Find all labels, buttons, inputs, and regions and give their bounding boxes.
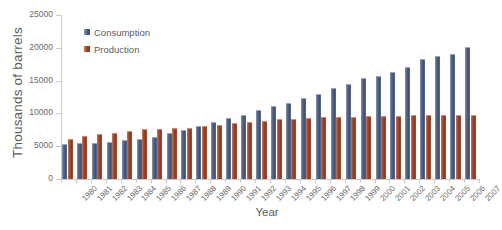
bar-consumption [450,54,455,179]
x-axis-tick [61,179,62,183]
bar-group [61,15,76,179]
x-axis-tick [121,179,122,183]
bar-production [321,117,326,179]
x-axis-tick [330,179,331,183]
bar-consumption [107,142,112,179]
bar-consumption [405,67,410,179]
bar-consumption [331,88,336,180]
bar-consumption [122,140,127,179]
x-axis-label: 1980 [80,184,99,203]
bar-production [351,117,356,179]
bar-production [441,115,446,179]
x-axis-tick [419,179,420,183]
bar-group [330,15,345,179]
bar-production [232,123,237,179]
x-axis-tick [300,179,301,183]
legend-swatch-icon [84,46,90,52]
bar-production [202,126,207,179]
chart-legend: ConsumptionProduction [84,25,150,59]
bar-production [456,115,461,179]
x-axis-label: 2006 [468,184,487,203]
bar-group [300,15,315,179]
x-axis-label: 1993 [274,184,293,203]
bar-group [270,15,285,179]
legend-label: Consumption [94,27,150,38]
x-axis-label: 1995 [304,184,323,203]
x-axis-label: 1982 [110,184,129,203]
bar-group [166,15,181,179]
bar-group [225,15,240,179]
bar-group [255,15,270,179]
bar-consumption [211,122,216,179]
bar-production [426,115,431,179]
x-axis-tick [210,179,211,183]
x-axis-label: 1992 [259,184,278,203]
bar-production [68,139,73,179]
bar-consumption [390,72,395,179]
bar-group [419,15,434,179]
bar-consumption [361,78,366,179]
y-axis-tick-label: 10000 [29,107,53,118]
bar-production [157,129,162,180]
bar-consumption [435,56,440,179]
x-axis-tick [180,179,181,183]
bar-production [187,128,192,179]
bar-group [434,15,449,179]
bar-group [285,15,300,179]
x-axis-tick [151,179,152,183]
bar-production [291,119,296,179]
x-axis-tick [240,179,241,183]
bar-consumption [346,84,351,179]
x-axis-tick [285,179,286,183]
bar-production [172,128,177,179]
legend-item: Production [84,42,150,56]
x-axis-tick [270,179,271,183]
bar-group [464,15,479,179]
x-axis-tick [464,179,465,183]
bar-consumption [420,59,425,179]
bar-production [396,116,401,179]
bar-production [112,133,117,179]
bar-group [210,15,225,179]
bar-consumption [152,137,157,179]
x-axis-tick [360,179,361,183]
bar-production [277,119,282,179]
bar-production [217,125,222,179]
bar-group [315,15,330,179]
x-axis-label: 2004 [438,184,457,203]
x-axis-tick [76,179,77,183]
x-axis-tick [449,179,450,183]
legend-label: Production [94,44,139,55]
bar-production [97,134,102,179]
bar-group [360,15,375,179]
bar-consumption [241,115,246,179]
bar-group [180,15,195,179]
x-axis-tick [136,179,137,183]
x-axis-tick [106,179,107,183]
bar-production [366,116,371,179]
bar-production [142,129,147,179]
x-axis-tick [195,179,196,183]
bar-production [471,115,476,179]
x-axis-tick [389,179,390,183]
x-axis-tick [345,179,346,183]
bar-group [449,15,464,179]
bar-group [404,15,419,179]
bar-group [345,15,360,179]
y-axis-tick-label: 0 [48,173,53,184]
x-axis-label: 1990 [229,184,248,203]
y-axis-tick-label: 25000 [29,9,53,20]
bar-consumption [137,139,142,179]
bar-production [127,131,132,179]
bar-production [336,117,341,179]
bar-production [262,121,267,179]
bar-production [247,122,252,179]
bar-group [151,15,166,179]
x-axis-tick [315,179,316,183]
legend-swatch-icon [84,29,90,35]
x-axis-tick [404,179,405,183]
x-axis-label: 2007 [483,184,502,203]
x-axis-label: 1981 [95,184,114,203]
bar-consumption [62,144,67,179]
